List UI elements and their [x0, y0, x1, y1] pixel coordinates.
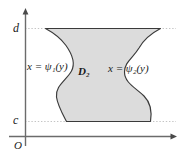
y-axis-arrowhead-icon: [23, 8, 29, 15]
y-axis-tick-label-d: d: [13, 22, 19, 34]
y-axis-tick-label-c: c: [13, 114, 18, 126]
right-boundary-curve-label: x = ψ₂(y): [108, 63, 149, 74]
shaded-region-d2: [46, 29, 161, 122]
origin-label: O: [14, 140, 22, 151]
math-figure-region-type-ii: d c O x = ψ₁(y) x = ψ₂(y) D₂: [0, 0, 185, 162]
x-axis-arrowhead-icon: [171, 134, 178, 140]
figure-canvas: [0, 0, 185, 162]
region-label-d2: D₂: [78, 66, 90, 77]
left-boundary-curve-label: x = ψ₁(y): [27, 61, 68, 72]
